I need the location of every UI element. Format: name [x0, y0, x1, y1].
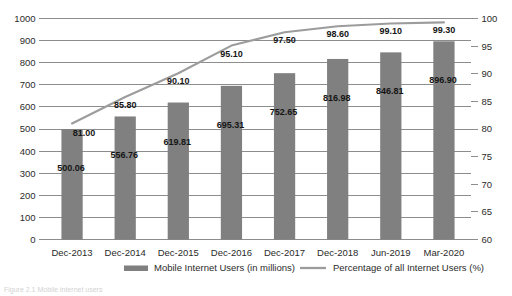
bar	[274, 73, 295, 239]
right-axis-tick-label: 100	[482, 13, 498, 24]
category-label: Jun-2019	[371, 247, 411, 258]
legend-bar-swatch	[124, 266, 148, 272]
bar-value-label: 896.90	[429, 75, 457, 85]
left-axis-tick-label: 200	[20, 190, 36, 201]
bar-value-label: 500.06	[57, 163, 85, 173]
category-axis-labels: Dec-2013Dec-2014Dec-2015Dec-2016Dec-2017…	[51, 247, 464, 258]
bar	[168, 103, 189, 240]
category-label: Dec-2017	[264, 247, 305, 258]
left-axis-tick-labels: 01002003004005006007008009001000	[14, 13, 35, 245]
category-label: Dec-2016	[211, 247, 252, 258]
left-axis-tick-label: 500	[20, 123, 36, 134]
right-axis-tick-label: 95	[482, 41, 493, 52]
left-axis-tick-label: 600	[20, 101, 36, 112]
chart-legend: Mobile Internet Users (in millions)Perce…	[124, 262, 484, 273]
right-axis-tick-label: 80	[482, 123, 493, 134]
right-axis-tick-label: 70	[482, 179, 493, 190]
category-label: Dec-2015	[158, 247, 199, 258]
line-value-label: 95.10	[220, 49, 243, 59]
bar-value-label: 695.31	[217, 120, 245, 130]
right-axis-tick-label: 65	[482, 206, 493, 217]
left-axis-tick-label: 1000	[14, 13, 35, 24]
bar	[433, 41, 454, 239]
legend-label-bar: Mobile Internet Users (in millions)	[154, 262, 295, 273]
line-value-label: 90.10	[167, 76, 190, 86]
combo-chart: 01002003004005006007008009001000 6065707…	[0, 0, 512, 296]
left-axis-tick-label: 100	[20, 212, 36, 223]
category-label: Mar-2020	[424, 247, 465, 258]
left-axis-ticks	[39, 19, 46, 240]
line-value-label: 99.10	[380, 26, 403, 36]
bar	[221, 86, 242, 240]
category-label: Dec-2018	[317, 247, 358, 258]
figure-caption-text: Figure 2.1 Mobile internet users	[4, 286, 103, 294]
category-label: Dec-2014	[105, 247, 146, 258]
line-value-label: 98.60	[326, 29, 349, 39]
left-axis-tick-label: 900	[20, 35, 36, 46]
right-axis-tick-label: 90	[482, 68, 493, 79]
line-value-label: 81.00	[73, 128, 96, 138]
left-axis-tick-label: 0	[30, 234, 35, 245]
left-axis-tick-label: 700	[20, 79, 36, 90]
bar-value-label: 846.81	[376, 86, 404, 96]
bar	[115, 116, 136, 239]
left-axis-tick-label: 400	[20, 146, 36, 157]
left-axis-tick-label: 800	[20, 57, 36, 68]
right-axis-ticks	[471, 19, 478, 240]
chart-container: 01002003004005006007008009001000 6065707…	[0, 0, 512, 296]
bar	[380, 52, 401, 239]
line-value-label: 85.80	[114, 100, 137, 110]
bar	[61, 129, 82, 240]
right-axis-tick-labels: 6065707580859095100	[482, 13, 498, 245]
category-label: Dec-2013	[51, 247, 92, 258]
bar-value-label: 556.76	[110, 150, 138, 160]
figure-caption: Figure 2.1 Mobile internet users	[4, 286, 103, 294]
bar-value-label: 816.98	[323, 93, 351, 103]
bar-value-label: 752.65	[270, 107, 298, 117]
gridlines	[46, 19, 471, 240]
line-value-label: 97.50	[273, 35, 296, 45]
bar-series-mobile-internet-users	[61, 41, 454, 239]
line-value-label: 99.30	[433, 25, 456, 35]
right-axis-tick-label: 75	[482, 151, 493, 162]
bar	[327, 59, 348, 240]
legend-label-line: Percentage of all Internet Users (%)	[333, 262, 484, 273]
bar-value-label: 619.81	[164, 137, 192, 147]
right-axis-tick-label: 60	[482, 234, 493, 245]
left-axis-tick-label: 300	[20, 168, 36, 179]
right-axis-tick-label: 85	[482, 96, 493, 107]
